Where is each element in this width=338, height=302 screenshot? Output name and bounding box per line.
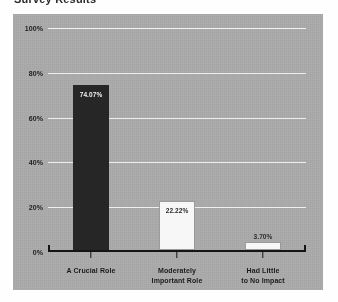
y-tick-label: 60%: [29, 114, 43, 121]
bar-group: 74.07%22.22%3.70%: [48, 26, 306, 250]
y-tick-label: 80%: [29, 69, 43, 76]
x-axis-tick: [90, 252, 91, 258]
y-tick-label: 0%: [33, 249, 43, 256]
bar-value-label: 3.70%: [254, 233, 273, 240]
x-axis-category-labels: A Crucial RoleModeratelyImportant RoleHa…: [48, 266, 306, 300]
page-heading-text: Survey Results: [14, 0, 214, 5]
page-heading-clipped: Survey Results: [14, 0, 214, 5]
chart-panel: 100%80%60%40%20%0% 74.07%22.22%3.70% A C…: [13, 14, 323, 290]
category-label-line: A Crucial Role: [67, 266, 116, 276]
chart-page: Survey Results 100%80%60%40%20%0% 74.07%…: [0, 0, 338, 302]
category-label: A Crucial Role: [67, 266, 116, 276]
category-label-line: Important Role: [152, 276, 203, 286]
y-tick-label: 100%: [25, 25, 43, 32]
bar-column[interactable]: 22.22%: [159, 26, 195, 250]
x-axis-tick: [176, 252, 177, 258]
x-axis-right-cap: [304, 245, 306, 252]
category-label-line: Had Little: [241, 266, 285, 276]
y-tick-label: 40%: [29, 159, 43, 166]
bar-value-label: 22.22%: [166, 207, 189, 214]
bar[interactable]: 22.22%: [159, 201, 195, 251]
bar-value-label: 74.07%: [80, 91, 103, 98]
bar-column[interactable]: 3.70%: [245, 26, 281, 250]
bar-column[interactable]: 74.07%: [73, 26, 109, 250]
y-tick-label: 20%: [29, 204, 43, 211]
category-label: ModeratelyImportant Role: [152, 266, 203, 286]
x-axis-left-cap: [48, 245, 50, 252]
x-axis-tick: [262, 252, 263, 258]
bar[interactable]: 3.70%: [245, 242, 281, 250]
bar[interactable]: 74.07%: [73, 85, 109, 251]
category-label: Had Littleto No Impact: [241, 266, 285, 286]
category-label-line: to No Impact: [241, 276, 285, 286]
category-label-line: Moderately: [152, 266, 203, 276]
plot-area: 100%80%60%40%20%0% 74.07%22.22%3.70%: [48, 28, 306, 252]
